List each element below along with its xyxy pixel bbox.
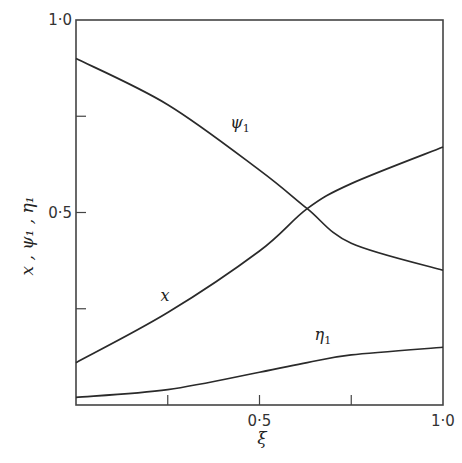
curve-label-eta1: η1	[315, 325, 332, 347]
line-chart: 0·51·00·51·0 ψ1xη1 ξ x , ψ₁ , η₁	[0, 0, 462, 463]
x-tick-label: 1·0	[431, 412, 455, 430]
y-axis-title: x , ψ₁ , η₁	[17, 196, 37, 275]
curve-label-x: x	[160, 286, 169, 305]
curve-label-psi1: ψ1	[230, 113, 250, 135]
y-tick-label: 0·5	[48, 204, 72, 222]
curve-psi1	[76, 59, 443, 271]
curves	[76, 59, 443, 398]
curve-eta1	[76, 347, 443, 397]
curve-labels: ψ1xη1	[160, 113, 331, 347]
plot-frame	[76, 20, 443, 405]
y-tick-label: 1·0	[48, 11, 72, 29]
x-axis-title: ξ	[257, 428, 268, 448]
